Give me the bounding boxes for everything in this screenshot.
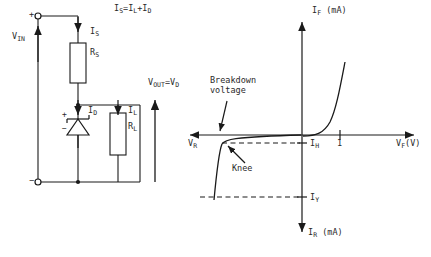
annotation-leaders — [220, 101, 245, 163]
il-label: IL — [128, 106, 137, 118]
junction-bottom-node — [76, 180, 80, 184]
rl-label: RL — [128, 122, 137, 134]
iv-chart-axes — [190, 22, 414, 232]
axis-label-ir: IR (mA) — [308, 228, 343, 240]
figure-canvas: + − VIN IS RS ID IL RL + − IS=IL+ID VOUT… — [0, 0, 431, 257]
axis-label-vr: VR — [188, 139, 197, 151]
zener-minus-label: − — [62, 124, 67, 133]
zener-plus-label: + — [62, 110, 67, 119]
rs-label: RS — [90, 48, 99, 60]
id-label: ID — [88, 106, 97, 118]
resistor-rs-body — [70, 43, 86, 83]
curve-reverse-breakdown — [214, 135, 301, 200]
tick-label-vf-1: 1 — [337, 139, 342, 148]
vin-label: VIN — [12, 32, 25, 44]
curve-forward-conduction — [303, 62, 345, 136]
leader-knee — [228, 146, 245, 163]
tick-label-iy: IY — [310, 193, 319, 205]
vout-label: VOUT=VD — [148, 78, 179, 90]
zener-triangle — [67, 119, 89, 135]
axis-label-vf: VF(V) — [396, 139, 420, 151]
zener-diode-symbol — [67, 115, 89, 148]
circuit-schematic — [38, 16, 140, 182]
axis-label-if: IF (mA) — [312, 6, 347, 18]
current-equation: IS=IL+ID — [114, 4, 151, 16]
minus-terminal-label: − — [29, 176, 34, 185]
leader-breakdown-voltage — [220, 101, 227, 131]
plus-terminal-label: + — [29, 10, 34, 19]
tick-label-ih: IH — [310, 139, 319, 151]
annotation-knee: Knee — [232, 163, 252, 173]
annotation-breakdown-voltage: Breakdownvoltage — [210, 75, 256, 95]
terminal-positive — [35, 13, 41, 19]
terminal-negative — [35, 179, 41, 185]
resistor-rl-body — [110, 113, 126, 155]
is-label: IS — [90, 27, 99, 39]
